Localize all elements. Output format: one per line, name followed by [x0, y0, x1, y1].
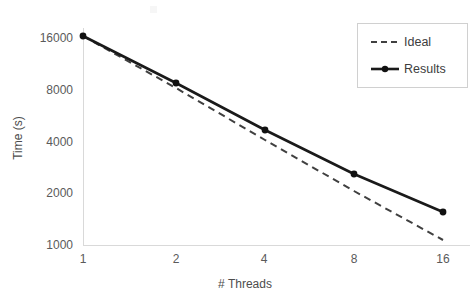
legend-label-results: Results	[404, 62, 446, 76]
data-point-marker	[440, 209, 447, 216]
legend-item-results: Results	[370, 62, 446, 76]
chart-legend: Ideal Results	[357, 23, 468, 88]
legend-item-ideal: Ideal	[370, 35, 431, 49]
data-point-marker	[173, 80, 180, 87]
legend-label-ideal: Ideal	[404, 35, 431, 49]
data-point-marker	[80, 33, 87, 40]
legend-solid-line-marker-icon	[370, 63, 400, 75]
legend-dashed-line-icon	[370, 36, 400, 48]
chart-container: 16000 8000 4000 2000 1000 1 2 4 8 16 Tim…	[0, 0, 476, 301]
data-point-marker	[262, 127, 269, 134]
data-point-marker	[351, 171, 358, 178]
